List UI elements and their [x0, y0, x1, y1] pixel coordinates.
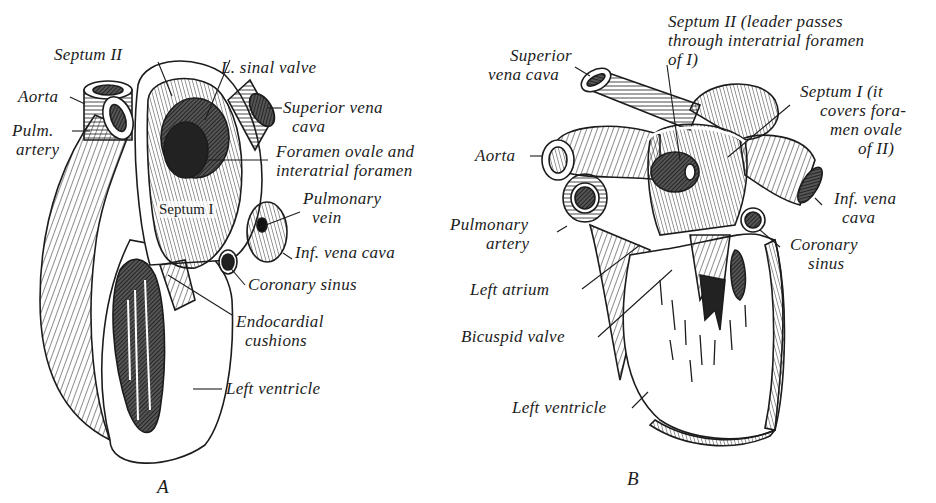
label-a-pulmonary-vein-2: vein — [312, 209, 342, 227]
heart-a — [40, 61, 287, 463]
label-b-coronary-sinus-1: Coronary — [790, 236, 858, 254]
label-a-pulmonary-vein-1: Pulmonary — [303, 190, 381, 208]
label-a-superior-vena-cava-2: cava — [292, 118, 325, 136]
label-a-endocardial-1: Endocardial — [236, 313, 324, 331]
label-b-septum-ii-2: through interatrial foramen — [668, 32, 864, 50]
label-b-inf-vena-cava-2: cava — [842, 209, 875, 227]
heart-b — [542, 63, 827, 445]
label-b-coronary-sinus-2: sinus — [808, 255, 844, 273]
label-a-septum-ii: Septum II — [54, 46, 122, 64]
label-a-foramen-2: interatrial foramen — [276, 162, 413, 180]
label-a-foramen-1: Foramen ovale and — [276, 143, 414, 161]
label-b-septum-i-3: men ovale — [830, 121, 902, 139]
label-a-inf-vena-cava: Inf. vena cava — [295, 244, 395, 262]
label-a-coronary-sinus: Coronary sinus — [248, 276, 357, 294]
label-b-septum-ii-3: of I) — [668, 51, 698, 69]
label-a-superior-vena-cava-1: Superior vena — [283, 99, 383, 117]
label-b-septum-ii-1: Septum II (leader passes — [668, 13, 843, 31]
panel-letter-a: A — [157, 476, 169, 498]
label-a-septum-i: Septum I — [157, 201, 216, 218]
label-b-pulmonary-artery-2: artery — [486, 235, 529, 253]
label-b-bicuspid-valve: Bicuspid valve — [461, 328, 565, 346]
label-b-left-ventricle: Left ventricle — [512, 399, 606, 417]
label-b-inf-vena-cava-1: Inf. vena — [834, 190, 896, 208]
label-b-septum-i-2: covers fora- — [820, 102, 906, 120]
label-a-left-ventricle: Left ventricle — [226, 380, 320, 398]
label-b-septum-i-4: of II) — [858, 140, 894, 158]
label-b-pulmonary-artery-1: Pulmonary — [450, 216, 528, 234]
label-b-aorta: Aorta — [475, 147, 515, 165]
label-a-pulm-artery-1: Pulm. — [12, 122, 54, 140]
label-b-left-atrium: Left atrium — [470, 281, 549, 299]
label-a-l-sinal-valve: L. sinal valve — [221, 59, 316, 77]
label-b-superior-vena-cava-1: Superior — [510, 47, 572, 65]
label-b-superior-vena-cava-2: vena cava — [488, 66, 559, 84]
label-a-endocardial-2: cushions — [245, 332, 307, 350]
label-a-pulm-artery-2: artery — [16, 141, 59, 159]
label-a-aorta: Aorta — [18, 88, 58, 106]
label-b-septum-i-1: Septum I (it — [800, 83, 883, 101]
panel-letter-b: B — [627, 468, 639, 490]
heart-development-figure: Septum II L. sinal valve Aorta Pulm. art… — [0, 0, 936, 503]
